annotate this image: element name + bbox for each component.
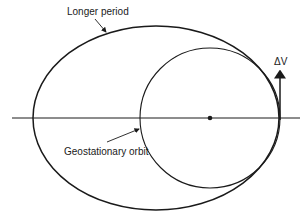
geostationary-orbit-label: Geostationary orbit [64, 147, 149, 157]
geostationary-pointer [107, 129, 139, 142]
longer-period-label: Longer period [67, 7, 129, 17]
orbit-diagram: Longer period Geostationary orbit ΔV [0, 0, 304, 221]
diagram-canvas [0, 0, 304, 221]
earth-center-dot [208, 116, 213, 121]
longer-period-pointer [95, 19, 106, 32]
delta-v-label: ΔV [274, 57, 287, 67]
